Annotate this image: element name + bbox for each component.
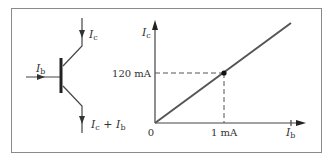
collector-lead xyxy=(63,18,82,66)
arrow-down-icon xyxy=(79,30,85,38)
base-current-label: Ib xyxy=(35,62,45,76)
ic-ib-graph xyxy=(152,20,306,126)
y-tick-label: 120 mA xyxy=(112,68,152,79)
x-tick-label: 1 mA xyxy=(211,127,238,138)
arrow-down-icon xyxy=(79,116,85,124)
arrow-right-icon xyxy=(296,120,306,126)
x-axis-label: Ib xyxy=(285,126,295,140)
collector-current-label: Ic xyxy=(88,28,98,42)
arrow-up-icon xyxy=(152,20,158,30)
y-axis-label: Ic xyxy=(141,26,151,40)
origin-label: 0 xyxy=(148,127,154,138)
operating-point xyxy=(221,70,226,75)
emitter-current-label: Ic + Ib xyxy=(90,118,126,132)
figure-canvas: Ib Ic Ic + Ib Ic 120 mA 0 1 mA Ib xyxy=(0,0,330,155)
npn-transistor-symbol xyxy=(26,18,85,133)
emitter-lead xyxy=(63,86,82,133)
